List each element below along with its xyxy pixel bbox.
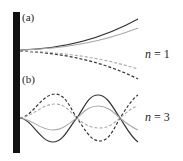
mode-shape-figure: (a) (b) n = 1 n = 3 — [0, 0, 183, 161]
a-light-solid-curve — [20, 28, 138, 50]
panel-a-curves — [20, 19, 138, 79]
panel-b-curves — [20, 94, 138, 142]
a-light-dashed-curve — [20, 51, 138, 69]
mode-curves — [0, 0, 183, 161]
a-dark-dashed-curve — [20, 51, 138, 79]
